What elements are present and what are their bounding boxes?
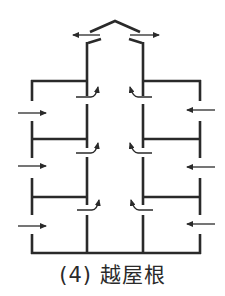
- shaft-walls: [87, 42, 143, 253]
- shaft-updraft-arrow-right: [130, 143, 152, 153]
- floor-slabs: [31, 81, 201, 253]
- figure-caption: (4) 越屋根: [0, 258, 225, 288]
- outer-walls: [32, 80, 200, 254]
- roof-ventilator: [88, 21, 142, 43]
- shaft-updraft-arrow-right: [130, 87, 152, 97]
- monitor-roof-ventilation-diagram: [0, 0, 225, 296]
